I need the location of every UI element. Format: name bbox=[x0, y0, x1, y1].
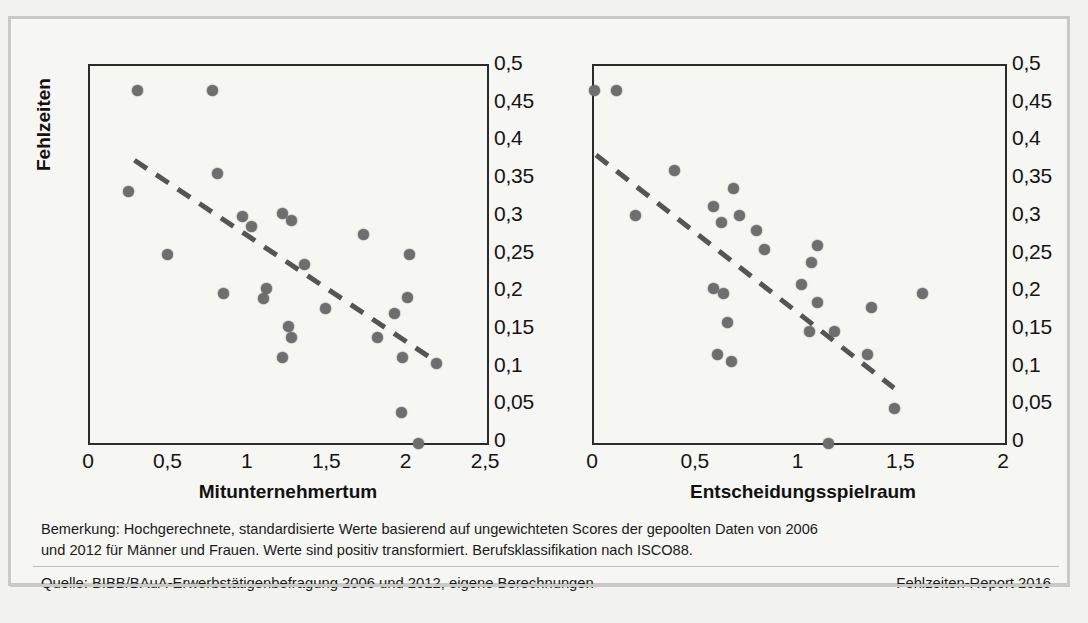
scatter-point bbox=[734, 210, 745, 221]
x-axis-tick-label: 0 bbox=[586, 449, 597, 473]
scatter-point bbox=[712, 349, 723, 360]
scatter-point bbox=[716, 217, 727, 228]
x-axis-tick-label: 1 bbox=[241, 449, 252, 473]
chart-panel-mitunternehmertum: Fehlzeiten 00,050,10,150,20,250,30,350,4… bbox=[11, 19, 555, 519]
x-axis-tick-label: 2,5 bbox=[471, 449, 500, 473]
y-axis-tick-label: 0,4 bbox=[1012, 126, 1041, 150]
scatter-point bbox=[397, 352, 408, 363]
note-line-2: und 2012 für Männer und Frauen. Werte si… bbox=[41, 540, 1051, 561]
plot-area-left bbox=[88, 64, 489, 445]
scatter-point bbox=[404, 249, 415, 260]
y-axis-tick-label: 0 bbox=[1012, 428, 1023, 452]
scatter-point bbox=[237, 211, 248, 222]
y-axis-tick-label: 0,25 bbox=[1012, 240, 1052, 264]
y-axis-tick-label: 0,5 bbox=[1012, 51, 1041, 75]
scatter-point bbox=[286, 215, 297, 226]
scatter-point bbox=[402, 292, 413, 303]
x-axis-tick-label: 0,5 bbox=[680, 449, 709, 473]
scatter-point bbox=[299, 259, 310, 270]
scatter-point bbox=[889, 403, 900, 414]
x-axis-tick-label: 0,5 bbox=[153, 449, 182, 473]
note-bemerkung: Bemerkung: Hochgerechnete, standardisier… bbox=[41, 519, 1051, 561]
scatter-point bbox=[722, 317, 733, 328]
scatter-point bbox=[718, 288, 729, 299]
scatter-point bbox=[258, 293, 269, 304]
scatter-point bbox=[866, 302, 877, 313]
note-line-1: Bemerkung: Hochgerechnete, standardisier… bbox=[41, 519, 1051, 540]
scatter-point bbox=[372, 332, 383, 343]
scatter-point bbox=[132, 85, 143, 96]
y-axis-tick-label: 0,3 bbox=[1012, 202, 1041, 226]
scatter-point bbox=[669, 165, 680, 176]
source-row: Quelle: BIBB/BAuA-Erwerbstätigenbefragun… bbox=[41, 575, 1051, 591]
scatter-point bbox=[812, 240, 823, 251]
scatter-point bbox=[823, 438, 834, 449]
scatter-point bbox=[389, 308, 400, 319]
scatter-point bbox=[728, 183, 739, 194]
scatter-point bbox=[630, 210, 641, 221]
y-axis-tick-label: 0,05 bbox=[1012, 390, 1052, 414]
plot-area-right bbox=[592, 64, 1007, 445]
x-axis-title-mitunternehmertum: Mitunternehmertum bbox=[199, 481, 377, 503]
scatter-points-right bbox=[594, 66, 1005, 443]
scatter-point bbox=[358, 229, 369, 240]
scatter-point bbox=[589, 85, 600, 96]
scatter-point bbox=[829, 326, 840, 337]
y-axis-tick-label: 0,1 bbox=[1012, 353, 1041, 377]
chart-panel-entscheidungsspielraum: 00,050,10,150,20,250,30,350,40,450,5 00,… bbox=[511, 19, 1071, 519]
page-bottom-rule bbox=[10, 584, 1070, 587]
report-label: Fehlzeiten-Report 2016 bbox=[896, 575, 1051, 591]
y-axis-tick-label: 0,45 bbox=[1012, 89, 1052, 113]
scatter-point bbox=[759, 244, 770, 255]
scatter-point bbox=[212, 168, 223, 179]
scatter-point bbox=[413, 438, 424, 449]
scatter-point bbox=[806, 257, 817, 268]
scatter-point bbox=[162, 249, 173, 260]
scatter-point bbox=[431, 358, 442, 369]
x-axis-tick-label: 1 bbox=[792, 449, 803, 473]
figure-sheet: Fehlzeiten 00,050,10,150,20,250,30,350,4… bbox=[11, 19, 1067, 583]
y-axis-title-left: Fehlzeiten bbox=[33, 78, 55, 171]
scatter-point bbox=[246, 221, 257, 232]
scatter-point bbox=[708, 201, 719, 212]
scatter-points-left bbox=[90, 66, 487, 443]
x-axis-tick-label: 0 bbox=[82, 449, 93, 473]
note-divider bbox=[33, 566, 1059, 567]
scatter-point bbox=[862, 349, 873, 360]
scatter-point bbox=[283, 321, 294, 332]
x-axis-tick-label: 2 bbox=[997, 449, 1008, 473]
scatter-point bbox=[917, 288, 928, 299]
y-axis-tick-label: 0,2 bbox=[1012, 277, 1041, 301]
x-axis-tick-label: 2 bbox=[400, 449, 411, 473]
scatter-point bbox=[286, 332, 297, 343]
x-axis-tick-label: 1,5 bbox=[312, 449, 341, 473]
scatter-point bbox=[796, 279, 807, 290]
x-axis-title-entscheidungsspielraum: Entscheidungsspielraum bbox=[690, 481, 916, 503]
scatter-point bbox=[320, 303, 331, 314]
scatter-point bbox=[218, 288, 229, 299]
y-axis-tick-label: 0,15 bbox=[1012, 315, 1052, 339]
figure-root: Fehlzeiten 00,050,10,150,20,250,30,350,4… bbox=[0, 0, 1088, 623]
scatter-point bbox=[726, 356, 737, 367]
y-axis-tick-label: 0,35 bbox=[1012, 164, 1052, 188]
scatter-point bbox=[751, 225, 762, 236]
scatter-point bbox=[277, 352, 288, 363]
scatter-point bbox=[207, 85, 218, 96]
scatter-point bbox=[611, 85, 622, 96]
x-axis-tick-label: 1,5 bbox=[886, 449, 915, 473]
scatter-point bbox=[812, 297, 823, 308]
source-text: Quelle: BIBB/BAuA-Erwerbstätigenbefragun… bbox=[41, 575, 594, 591]
scatter-point bbox=[123, 186, 134, 197]
scatter-point bbox=[396, 407, 407, 418]
scatter-point bbox=[804, 326, 815, 337]
